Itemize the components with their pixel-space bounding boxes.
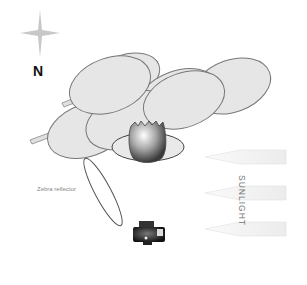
- lighting-diagram-canvas: [0, 0, 307, 285]
- compass-north-label: N: [33, 63, 43, 79]
- sunlight-label: SUNLIGHT: [237, 175, 247, 226]
- egg-icon: [129, 121, 166, 163]
- camera-icon: [133, 221, 165, 245]
- compass-star-icon: [20, 10, 60, 58]
- reflector-label: Zebra reflector: [37, 186, 76, 192]
- sunlight-arrow: [205, 150, 286, 164]
- zebra-reflector: [78, 155, 128, 230]
